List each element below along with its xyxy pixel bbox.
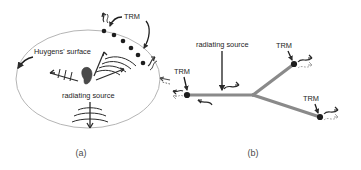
panel-b: radiating source TRM TRM TRM bbox=[173, 40, 338, 158]
figure-root: Huygens' surface radiating source bbox=[0, 0, 361, 170]
trm-array-a bbox=[102, 29, 146, 66]
wave-arrow-down bbox=[72, 102, 108, 128]
trm-label-pointer-right bbox=[144, 21, 149, 48]
waveguide-network bbox=[187, 64, 320, 117]
trm-pointer-upper-right bbox=[288, 51, 292, 60]
trm-dot[interactable] bbox=[102, 29, 107, 34]
trm-node-lower-right[interactable] bbox=[317, 114, 323, 120]
wave-arrow-left bbox=[50, 69, 78, 81]
wave-arrow-outgoing-left bbox=[173, 90, 183, 99]
trm-node-upper-right[interactable] bbox=[291, 61, 297, 67]
wave-arrow-up-right bbox=[94, 52, 136, 80]
trm-node-left[interactable] bbox=[184, 92, 190, 98]
waveguide-upper-branch bbox=[253, 64, 294, 95]
trm-label-lower-right: TRM bbox=[303, 94, 319, 103]
trm-label-left: TRM bbox=[174, 67, 190, 76]
trm-label-a: TRM bbox=[124, 12, 140, 21]
trm-dot[interactable] bbox=[129, 46, 134, 51]
trm-pointer-lower-right bbox=[315, 104, 318, 113]
trm-dot[interactable] bbox=[141, 61, 146, 66]
trm-dot[interactable] bbox=[136, 53, 141, 58]
trm-label-upper-right: TRM bbox=[276, 41, 292, 50]
trm-dot[interactable] bbox=[121, 39, 126, 44]
wave-arrow-right-outer bbox=[160, 77, 170, 84]
wave-arrow-lower-branch bbox=[324, 107, 338, 120]
wave-arrow-outgoing-right bbox=[224, 82, 239, 89]
radiating-source-blob bbox=[82, 67, 92, 84]
trm-label-pointer-left bbox=[110, 17, 122, 26]
huygens-surface-label: Huygens' surface bbox=[34, 47, 91, 56]
panel-a: Huygens' surface radiating source bbox=[16, 12, 170, 158]
radiating-source-label-b: radiating source bbox=[196, 40, 249, 49]
squiggle-arrow-top bbox=[102, 13, 108, 23]
squiggle-arrow-right bbox=[148, 57, 157, 70]
wave-arrow-return-left bbox=[198, 100, 212, 105]
wave-arrow-upper-branch bbox=[298, 55, 312, 68]
trm-dot[interactable] bbox=[112, 33, 117, 38]
radiating-source-label-a: radiating source bbox=[62, 91, 115, 100]
caption-b: (b) bbox=[248, 148, 259, 158]
caption-a: (a) bbox=[76, 148, 87, 158]
trm-pointer-left bbox=[184, 77, 187, 90]
